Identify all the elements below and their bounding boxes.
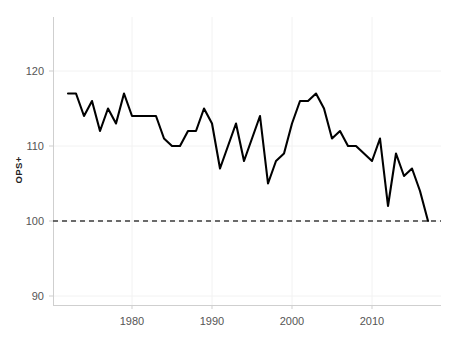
x-tick-labels: 1980 1990 2000 2010 <box>120 315 384 327</box>
x-tick-label-2000: 2000 <box>280 315 304 327</box>
line-chart-svg: 120 110 100 90 1980 1990 2000 2010 OPS+ <box>0 0 457 343</box>
y-tick-label-120: 120 <box>26 65 44 77</box>
x-tick-label-1990: 1990 <box>200 315 224 327</box>
y-axis-title: OPS+ <box>13 156 24 183</box>
y-tick-label-90: 90 <box>32 290 44 302</box>
x-tick-label-1980: 1980 <box>120 315 144 327</box>
x-tick-label-2010: 2010 <box>360 315 384 327</box>
y-tick-label-100: 100 <box>26 215 44 227</box>
y-tick-label-110: 110 <box>26 140 44 152</box>
chart-container: 120 110 100 90 1980 1990 2000 2010 OPS+ <box>0 0 457 343</box>
y-tick-marks <box>49 71 53 296</box>
y-tick-labels: 120 110 100 90 <box>26 65 44 302</box>
